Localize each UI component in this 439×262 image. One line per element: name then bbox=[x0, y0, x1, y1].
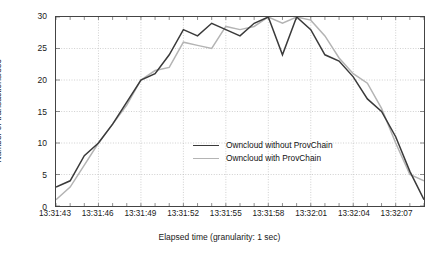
y-axis-tick-labels: 051015202530 bbox=[0, 0, 55, 262]
x-axis-tick-label: 13:31:43 bbox=[39, 210, 71, 218]
y-axis-tick-label: 5 bbox=[42, 171, 47, 180]
y-axis-tick-label: 25 bbox=[38, 44, 47, 53]
y-axis-title: Number of transactions/sec bbox=[0, 59, 3, 162]
chart-figure: 051015202530 Number of transactions/sec … bbox=[0, 0, 439, 262]
y-axis-tick-label: 30 bbox=[38, 12, 47, 21]
x-axis-tick-label: 13:31:46 bbox=[82, 210, 114, 218]
y-axis-tick-label: 15 bbox=[38, 107, 47, 116]
data-series-line bbox=[56, 17, 424, 200]
x-axis-tick-label: 13:32:04 bbox=[338, 210, 370, 218]
legend-line-swatch bbox=[193, 145, 219, 146]
x-axis-tick-label: 13:32:01 bbox=[295, 210, 327, 218]
legend-item-label: Owncloud without ProvChain bbox=[226, 141, 333, 149]
x-axis-tick-label: 13:32:07 bbox=[381, 210, 413, 218]
legend-item: Owncloud without ProvChain bbox=[193, 139, 333, 152]
legend-item: Owncloud with ProvChain bbox=[193, 152, 333, 165]
data-series-layer bbox=[56, 17, 424, 206]
y-axis-tick-label: 20 bbox=[38, 75, 47, 84]
x-axis-tick-label: 13:31:52 bbox=[167, 210, 199, 218]
data-series-line bbox=[56, 17, 424, 200]
x-axis-title: Elapsed time (granularity: 1 sec) bbox=[0, 232, 439, 242]
chart-legend: Owncloud without ProvChain Owncloud with… bbox=[193, 139, 333, 165]
x-axis-tick-label: 13:31:58 bbox=[253, 210, 285, 218]
y-axis-tick-label: 10 bbox=[38, 139, 47, 148]
legend-item-label: Owncloud with ProvChain bbox=[226, 154, 321, 162]
plot-area bbox=[55, 16, 425, 207]
x-axis-tick-label: 13:31:49 bbox=[124, 210, 156, 218]
x-axis-tick-label: 13:31:55 bbox=[210, 210, 242, 218]
legend-line-swatch bbox=[193, 158, 219, 159]
